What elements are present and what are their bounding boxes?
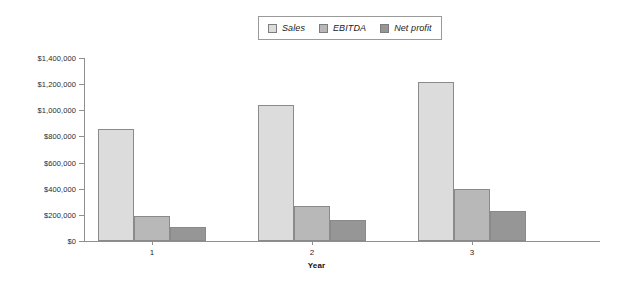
legend-label-sales: Sales [282,23,305,33]
x-axis-tick [312,241,313,245]
y-axis-tick-label: $400,000 [44,184,76,193]
x-axis-tick [152,241,153,245]
x-axis-title: Year [0,261,633,270]
legend-label-net-profit: Net profit [394,23,432,33]
bar-chart: Sales EBITDA Net profit $0$200,000$400,0… [0,0,633,286]
legend-item-ebitda: EBITDA [319,23,366,33]
y-axis-tick-label: $200,000 [44,210,76,219]
y-axis-tick-label: $1,400,000 [37,54,76,63]
legend-swatch-net-profit [380,24,389,33]
y-axis-tick-labels: $0$200,000$400,000$600,000$800,000$1,000… [0,0,76,286]
legend-swatch-sales [268,24,277,33]
legend-label-ebitda: EBITDA [333,23,366,33]
bar-sales-year-1 [98,129,134,241]
y-axis-tick-label: $0 [67,237,76,246]
x-axis-tick-label: 1 [150,248,154,257]
bar-sales-year-2 [258,105,294,241]
x-axis-tick-label: 2 [310,248,314,257]
bar-ebitda-year-2 [294,206,330,241]
bar-net-profit-year-1 [170,227,206,241]
y-axis-tick-label: $600,000 [44,158,76,167]
y-axis-tick-label: $800,000 [44,132,76,141]
bar-sales-year-3 [418,82,454,241]
legend-swatch-ebitda [319,24,328,33]
bar-net-profit-year-2 [330,220,366,241]
y-axis-tick [79,241,84,242]
bar-ebitda-year-1 [134,216,170,241]
legend-item-net-profit: Net profit [380,23,432,33]
y-axis-tick-label: $1,000,000 [37,106,76,115]
bar-ebitda-year-3 [454,189,490,241]
y-axis-tick-label: $1,200,000 [37,80,76,89]
x-axis-tick [472,241,473,245]
x-axis-tick-label: 3 [470,248,474,257]
bars-layer [84,58,600,241]
legend-item-sales: Sales [268,23,305,33]
chart-legend: Sales EBITDA Net profit [258,16,442,40]
x-axis-line [84,241,600,242]
bar-net-profit-year-3 [490,211,526,241]
